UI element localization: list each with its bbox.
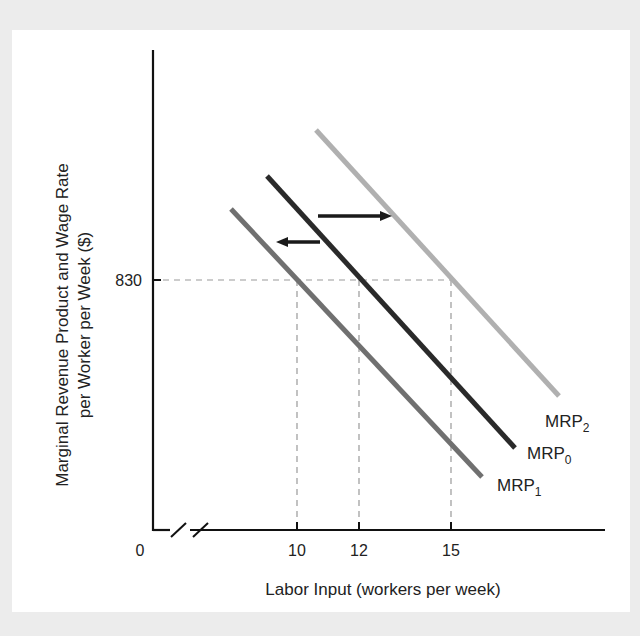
mrp0-label: MRP0: [527, 444, 572, 467]
mrp2-curve: [316, 130, 559, 396]
mrp1-curve: [231, 209, 482, 477]
axis-break-icon: [171, 523, 186, 537]
mrp0-curve: [267, 176, 515, 448]
x-tick-label-0: 0: [136, 542, 145, 559]
x-tick-label-10: 10: [288, 542, 306, 559]
shift-left-arrow-icon: [276, 237, 320, 247]
y-axis-title-line2: per Worker per Week ($): [75, 232, 94, 418]
x-tick-label-15: 15: [442, 542, 460, 559]
chart-svg: 830 0 10 12 15 Labor Input (workers per …: [0, 0, 640, 636]
y-axis-title-line1: Marginal Revenue Product and Wage Rate: [53, 163, 72, 487]
shift-right-arrow-icon: [318, 211, 392, 221]
x-axis-title: Labor Input (workers per week): [265, 580, 500, 599]
y-tick-label-830: 830: [115, 272, 142, 289]
mrp1-label: MRP1: [497, 476, 542, 499]
mrp2-label: MRP2: [545, 412, 590, 435]
x-tick-label-12: 12: [350, 542, 368, 559]
